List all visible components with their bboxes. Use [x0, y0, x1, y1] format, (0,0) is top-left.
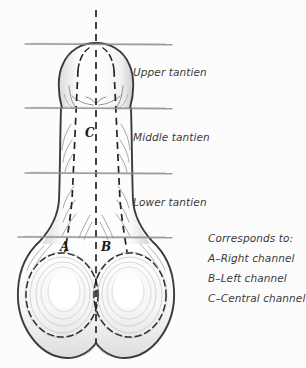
marker-b: B [101, 240, 111, 254]
label-middle-tantien: Middle tantien [133, 131, 210, 143]
diagram-page: Upper tantien Middle tantien Lower tanti… [0, 0, 306, 368]
divider-line-3 [25, 173, 172, 174]
legend-heading: Corresponds to: [208, 232, 293, 244]
divider-line-4 [18, 237, 172, 238]
divider-line-1 [25, 44, 172, 45]
marker-c: C [85, 126, 95, 140]
legend-item-a: A–Right channel [208, 252, 294, 264]
legend-item-b: B–Left channel [208, 272, 287, 284]
divider-line-2 [25, 108, 172, 109]
legend-item-c: C–Central channel [208, 292, 305, 304]
label-upper-tantien: Upper tantien [133, 66, 207, 78]
marker-a: A [60, 240, 69, 254]
label-lower-tantien: Lower tantien [133, 196, 207, 208]
tantien-diagram [0, 0, 306, 368]
